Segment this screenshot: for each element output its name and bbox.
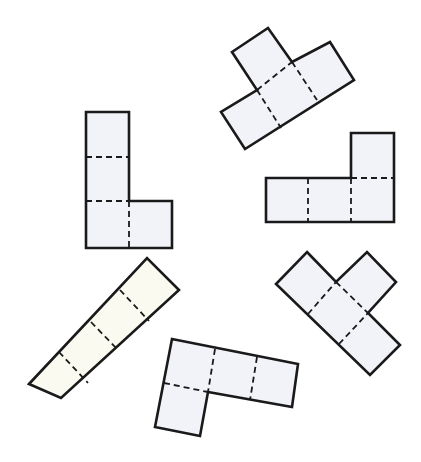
shape-strip bbox=[29, 258, 179, 398]
nets-diagram bbox=[0, 0, 421, 462]
shape-left-l bbox=[86, 112, 172, 248]
shape-right-l bbox=[266, 133, 394, 222]
shape-bottom-l bbox=[155, 339, 298, 436]
shape-top-t bbox=[221, 28, 354, 149]
figure-canvas bbox=[0, 0, 421, 462]
shape-x bbox=[276, 252, 400, 375]
